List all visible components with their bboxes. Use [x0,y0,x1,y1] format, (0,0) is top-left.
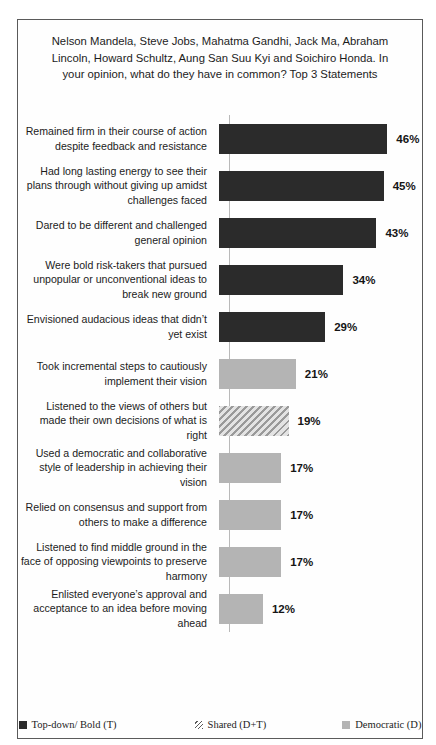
bar-topdown [219,265,343,295]
chart-frame: Nelson Mandela, Steve Jobs, Mahatma Gand… [17,19,423,739]
bar-track: 34% [218,256,422,303]
legend-label: Top-down/ Bold (T) [32,719,117,730]
legend-item-topdown[interactable]: Top-down/ Bold (T) [19,719,117,730]
bar-row: Enlisted everyone’s approval and accepta… [18,585,422,632]
bar-row: Listened to find middle ground in the fa… [18,538,422,585]
bar-category-label: Were bold risk-takers that pursued unpop… [18,258,218,301]
bar-track: 29% [218,303,422,350]
bar-row: Dared to be different and challenged gen… [18,209,422,256]
legend-item-shared[interactable]: Shared (D+T) [195,719,267,730]
bar-track: 21% [218,350,422,397]
plot-area: Remained firm in their course of action … [18,115,422,632]
bar-democratic [219,453,281,483]
bar-track: 46% [218,115,422,162]
bar-democratic [219,547,281,577]
bar-category-label: Used a democratic and collaborative styl… [18,446,218,489]
bar-democratic [219,594,263,624]
bar-value-label: 43% [385,227,408,239]
legend-swatch-democratic-icon [342,721,350,729]
bar-value-label: 17% [290,509,313,521]
bar-value-label: 21% [305,368,328,380]
bar-value-label: 17% [290,556,313,568]
bar-value-label: 17% [290,462,313,474]
bar-row: Had long lasting energy to see their pla… [18,162,422,209]
bar-category-label: Relied on consensus and support from oth… [18,500,218,528]
bar-democratic [219,359,296,389]
bar-value-label: 34% [352,274,375,286]
bar-track: 17% [218,444,422,491]
bar-topdown [219,218,376,248]
bar-value-label: 45% [393,180,416,192]
bar-category-label: Took incremental steps to cautiously imp… [18,359,218,387]
bar-track: 19% [218,397,422,444]
legend-item-democratic[interactable]: Democratic (D) [342,719,421,730]
bar-category-label: Enlisted everyone’s approval and accepta… [18,587,218,630]
bar-row: Envisioned audacious ideas that didn’t y… [18,303,422,350]
bar-row: Relied on consensus and support from oth… [18,491,422,538]
bar-row: Remained firm in their course of action … [18,115,422,162]
bar-topdown [219,171,384,201]
legend-swatch-topdown-icon [19,721,27,729]
bar-value-label: 29% [334,321,357,333]
bar-democratic [219,500,281,530]
legend-swatch-shared-icon [195,721,203,729]
bar-category-label: Listened to find middle ground in the fa… [18,540,218,583]
bar-topdown [219,124,387,154]
chart-legend: Top-down/ Bold (T)Shared (D+T)Democratic… [18,719,422,730]
bar-row: Were bold risk-takers that pursued unpop… [18,256,422,303]
bar-value-label: 46% [396,133,419,145]
legend-label: Shared (D+T) [208,719,267,730]
bar-category-label: Listened to the views of others but made… [18,399,218,442]
bar-shared [219,406,289,436]
bar-track: 45% [218,162,422,209]
bar-category-label: Had long lasting energy to see their pla… [18,164,218,207]
bar-topdown [219,312,325,342]
bar-row: Listened to the views of others but made… [18,397,422,444]
bar-track: 12% [218,585,422,632]
bar-category-label: Remained firm in their course of action … [18,124,218,152]
bar-row: Took incremental steps to cautiously imp… [18,350,422,397]
bar-track: 17% [218,538,422,585]
bar-category-label: Dared to be different and challenged gen… [18,218,218,246]
bar-category-label: Envisioned audacious ideas that didn’t y… [18,312,218,340]
bar-row: Used a democratic and collaborative styl… [18,444,422,491]
legend-label: Democratic (D) [355,719,421,730]
bar-track: 43% [218,209,422,256]
bar-track: 17% [218,491,422,538]
bar-value-label: 19% [298,415,321,427]
bar-value-label: 12% [272,603,295,615]
chart-title: Nelson Mandela, Steve Jobs, Mahatma Gand… [40,33,400,83]
